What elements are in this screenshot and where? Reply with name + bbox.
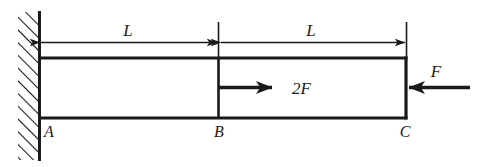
node-label-a: A — [43, 123, 54, 140]
dimension-right-label: L — [305, 21, 315, 40]
dimension-left-label: L — [122, 21, 132, 40]
force-2F: 2F — [219, 79, 312, 98]
node-label-c: C — [400, 123, 411, 140]
force-F: F — [409, 62, 470, 88]
wall-hatching — [18, 12, 39, 160]
diagram-canvas: 2F F L L A B C — [0, 0, 482, 167]
engineering-diagram: 2F F L L A B C — [0, 0, 482, 167]
node-label-b: B — [214, 123, 224, 140]
fixed-support — [18, 11, 40, 161]
force-F-label: F — [430, 62, 442, 81]
force-2F-label: 2F — [292, 79, 312, 98]
